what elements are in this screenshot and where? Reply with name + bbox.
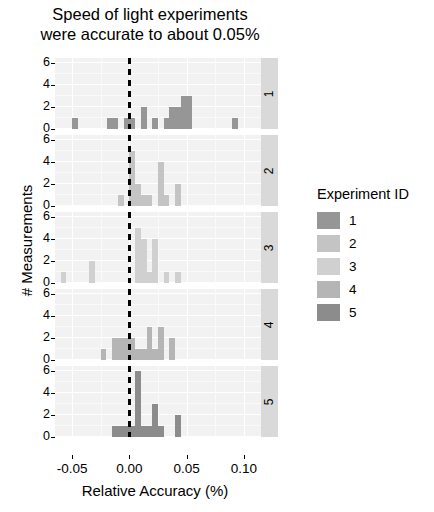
legend-label: 5 (349, 305, 357, 320)
legend-label: 2 (349, 236, 357, 251)
facet-strip-label: 1 (261, 58, 278, 129)
y-tick-label: 0 (24, 429, 50, 443)
legend-item[interactable]: 1 (317, 212, 409, 229)
y-tick-label: 6 (24, 55, 50, 69)
histogram-bar (141, 107, 147, 129)
histogram-bar (175, 415, 181, 437)
chart-title: Speed of light experiments were accurate… (0, 4, 300, 44)
histogram-bar (152, 118, 158, 129)
legend-item[interactable]: 2 (317, 235, 409, 252)
histogram-bar (169, 338, 175, 360)
y-tick-label: 2 (24, 330, 50, 344)
histogram-bar (158, 426, 164, 437)
histogram-bar (89, 261, 95, 283)
histogram-bar (164, 195, 170, 206)
bar-series (55, 366, 261, 437)
reference-line (128, 289, 131, 360)
x-tick-label: -0.05 (49, 461, 95, 476)
legend-swatch (317, 304, 340, 321)
y-tick-label: 2 (24, 99, 50, 113)
y-tick-label: 2 (24, 253, 50, 267)
bar-series (55, 212, 261, 283)
y-tick-label: 6 (24, 286, 50, 300)
histogram-bar (101, 349, 107, 360)
legend-label: 4 (349, 282, 357, 297)
x-tick-mark (244, 455, 245, 459)
facet-panel-5: 5 (55, 366, 261, 437)
chart-root: Speed of light experiments were accurate… (0, 0, 434, 512)
facet-strip-label: 3 (261, 212, 278, 283)
reference-line (128, 212, 131, 283)
legend-swatch (317, 258, 340, 275)
y-tick-label: 2 (24, 176, 50, 190)
legend-label: 1 (349, 213, 357, 228)
facet-strip-label: 5 (261, 366, 278, 437)
reference-line (128, 58, 131, 129)
reference-line (128, 366, 131, 437)
bar-series (55, 135, 261, 206)
histogram-bar (175, 272, 181, 283)
bar-series (55, 58, 261, 129)
legend: Experiment ID 12345 (317, 186, 409, 327)
y-tick-label: 4 (24, 231, 50, 245)
legend-items: 12345 (317, 212, 409, 321)
legend-label: 3 (349, 259, 357, 274)
x-tick-mark (129, 455, 130, 459)
histogram-bar (187, 96, 193, 129)
histogram-bar (147, 195, 153, 206)
y-tick-label: 4 (24, 308, 50, 322)
x-tick-label: 0.05 (164, 461, 210, 476)
histogram-bar (164, 272, 170, 283)
y-tick-label: 6 (24, 209, 50, 223)
legend-item[interactable]: 3 (317, 258, 409, 275)
bar-series (55, 289, 261, 360)
legend-item[interactable]: 5 (317, 304, 409, 321)
facet-strip-label: 2 (261, 135, 278, 206)
facet-panels: 12345 (55, 58, 261, 453)
facet-panel-3: 3 (55, 212, 261, 283)
histogram-bar (158, 327, 164, 360)
y-tick-label: 4 (24, 385, 50, 399)
facet-panel-2: 2 (55, 135, 261, 206)
x-tick-mark (72, 455, 73, 459)
histogram-bar (232, 118, 238, 129)
histogram-bar (72, 118, 78, 129)
histogram-bar (152, 239, 158, 283)
legend-item[interactable]: 4 (317, 281, 409, 298)
legend-swatch (317, 281, 340, 298)
facet-strip-label: 4 (261, 289, 278, 360)
x-tick-mark (187, 455, 188, 459)
legend-swatch (317, 235, 340, 252)
facet-panel-1: 1 (55, 58, 261, 129)
histogram-bar (61, 272, 67, 283)
reference-line (128, 135, 131, 206)
histogram-bar (112, 118, 118, 129)
x-tick-label: 0.10 (221, 461, 267, 476)
legend-swatch (317, 212, 340, 229)
y-tick-label: 6 (24, 363, 50, 377)
legend-title: Experiment ID (317, 186, 409, 202)
y-tick-label: 4 (24, 77, 50, 91)
histogram-bar (175, 184, 181, 206)
y-tick-label: 6 (24, 132, 50, 146)
facet-panel-4: 4 (55, 289, 261, 360)
histogram-bar (118, 195, 124, 206)
x-axis-label: Relative Accuracy (%) (30, 482, 280, 499)
y-tick-label: 2 (24, 407, 50, 421)
x-tick-label: 0.00 (106, 461, 152, 476)
y-tick-label: 4 (24, 154, 50, 168)
